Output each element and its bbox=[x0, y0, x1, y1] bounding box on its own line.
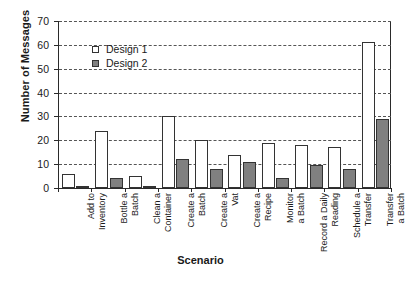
x-axis-title: Scenario bbox=[0, 254, 401, 266]
gridline bbox=[59, 93, 391, 94]
bar-d2 bbox=[243, 162, 256, 188]
x-tick-mark bbox=[191, 188, 192, 192]
y-tick-mark bbox=[54, 21, 58, 22]
x-tick-mark bbox=[158, 188, 159, 192]
bar-d1 bbox=[162, 116, 175, 188]
gridline bbox=[59, 116, 391, 117]
y-tick-label: 60 bbox=[37, 39, 49, 51]
y-tick-mark bbox=[54, 93, 58, 94]
y-tick-label: 70 bbox=[37, 15, 49, 27]
bar-d1 bbox=[328, 147, 341, 188]
x-tick-mark bbox=[391, 188, 392, 192]
x-category-label: Create a Vat bbox=[219, 193, 240, 263]
bar-d2 bbox=[210, 169, 223, 188]
legend-swatch-design-2 bbox=[92, 60, 99, 67]
bar-d1 bbox=[62, 174, 75, 188]
y-axis-tick-labels: 706050403020100 bbox=[0, 0, 56, 281]
x-tick-mark bbox=[58, 188, 59, 192]
y-tick-mark bbox=[54, 45, 58, 46]
legend: Design 1 Design 2 bbox=[92, 42, 147, 70]
y-tick-label: 30 bbox=[37, 110, 49, 122]
y-tick-mark bbox=[54, 188, 58, 189]
x-tick-mark bbox=[358, 188, 359, 192]
x-category-label: Transfer a Batch bbox=[385, 193, 406, 263]
gridline bbox=[59, 21, 391, 22]
legend-label-design-2: Design 2 bbox=[106, 57, 147, 69]
x-tick-mark bbox=[258, 188, 259, 192]
y-tick-mark bbox=[54, 69, 58, 70]
bar-d1 bbox=[362, 42, 375, 188]
legend-item-design-2: Design 2 bbox=[92, 56, 147, 70]
x-category-label: Record a Daily Reading bbox=[319, 193, 340, 263]
bar-d2 bbox=[343, 169, 356, 188]
bar-d1 bbox=[195, 140, 208, 188]
legend-item-design-1: Design 1 bbox=[92, 42, 147, 56]
x-category-label: Schedule a Transfer bbox=[352, 193, 373, 263]
x-tick-mark bbox=[225, 188, 226, 192]
x-tick-mark bbox=[291, 188, 292, 192]
x-tick-mark bbox=[324, 188, 325, 192]
x-category-label: Add to Inventory bbox=[86, 193, 107, 263]
y-tick-mark bbox=[54, 140, 58, 141]
bar-d1 bbox=[95, 131, 108, 188]
x-category-label: Monitor a Batch bbox=[285, 193, 306, 263]
bar-d1 bbox=[129, 176, 142, 188]
y-tick-label: 50 bbox=[37, 63, 49, 75]
bar-d2 bbox=[310, 165, 323, 188]
x-category-label: Create a Batch bbox=[186, 193, 207, 263]
y-tick-label: 40 bbox=[37, 87, 49, 99]
y-tick-label: 0 bbox=[43, 182, 49, 194]
y-tick-mark bbox=[54, 116, 58, 117]
legend-label-design-1: Design 1 bbox=[106, 43, 147, 55]
bar-d2 bbox=[376, 119, 389, 188]
x-category-label: Clean a Container bbox=[152, 193, 173, 263]
bar-d1 bbox=[295, 145, 308, 188]
bar-d1 bbox=[262, 143, 275, 188]
y-tick-label: 10 bbox=[37, 158, 49, 170]
bar-d1 bbox=[228, 155, 241, 188]
legend-swatch-design-1 bbox=[92, 46, 99, 53]
x-category-label: Create a Recipe bbox=[252, 193, 273, 263]
y-tick-mark bbox=[54, 164, 58, 165]
bar-d2 bbox=[276, 178, 289, 188]
bar-d2 bbox=[110, 178, 123, 188]
gridline bbox=[59, 140, 391, 141]
x-tick-mark bbox=[91, 188, 92, 192]
x-category-label: Bottle a Batch bbox=[119, 193, 140, 263]
x-tick-mark bbox=[125, 188, 126, 192]
y-tick-label: 20 bbox=[37, 134, 49, 146]
bar-d2 bbox=[176, 159, 189, 188]
